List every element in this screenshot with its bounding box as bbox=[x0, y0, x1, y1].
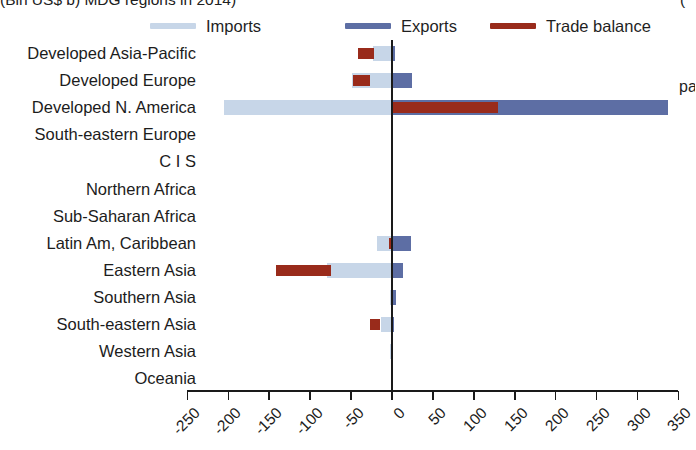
chart-row: Developed Asia-Pacific bbox=[0, 40, 696, 67]
bar-exports bbox=[392, 236, 411, 251]
x-axis-tick bbox=[473, 391, 475, 400]
legend-item-trade-balance[interactable]: Trade balance bbox=[490, 14, 651, 38]
bar-zone bbox=[200, 40, 696, 67]
x-axis-tick bbox=[555, 391, 557, 400]
chart-row: Sub-Saharan Africa bbox=[0, 203, 696, 230]
category-label-latin-am-caribbean: Latin Am, Caribbean bbox=[0, 230, 196, 257]
chart-row: Western Asia bbox=[0, 338, 696, 365]
bar-trade-balance bbox=[276, 265, 331, 276]
bar-zone bbox=[200, 311, 696, 338]
chart-row: South-eastern Asia bbox=[0, 311, 696, 338]
chart-title-clipped: (Bln US$ b) MDG regions in 2014) bbox=[0, 0, 560, 13]
category-label-developed-asia-pacific: Developed Asia-Pacific bbox=[0, 40, 196, 67]
legend-item-imports[interactable]: Imports bbox=[150, 14, 261, 38]
chart-title-text: (Bln US$ b) MDG regions in 2014) bbox=[0, 0, 560, 9]
bar-zone bbox=[200, 365, 696, 392]
x-axis-tick bbox=[637, 391, 639, 400]
category-label-south-eastern-europe: South-eastern Europe bbox=[0, 121, 196, 148]
x-axis-tick bbox=[187, 391, 189, 400]
bar-zone bbox=[200, 257, 696, 284]
category-label-southern-asia: Southern Asia bbox=[0, 284, 196, 311]
x-axis-tick bbox=[678, 391, 680, 400]
chart-root: (Bln US$ b) MDG regions in 2014) ( Impor… bbox=[0, 0, 696, 450]
x-axis-tick bbox=[432, 391, 434, 400]
bar-trade-balance bbox=[358, 48, 374, 59]
chart-row: Eastern Asia bbox=[0, 257, 696, 284]
line-swatch-icon bbox=[490, 23, 536, 29]
category-label-northern-africa: Northern Africa bbox=[0, 176, 196, 203]
bar-zone bbox=[200, 176, 696, 203]
bar-trade-balance bbox=[392, 102, 498, 113]
bar-trade-balance bbox=[353, 75, 370, 86]
bar-zone bbox=[200, 121, 696, 148]
chart-row: Northern Africa bbox=[0, 176, 696, 203]
category-label-developed-n-america: Developed N. America bbox=[0, 94, 196, 121]
bar-zone bbox=[200, 230, 696, 257]
category-label-south-eastern-asia: South-eastern Asia bbox=[0, 311, 196, 338]
bar-exports bbox=[392, 263, 403, 278]
x-axis-tick bbox=[350, 391, 352, 400]
category-label-c-i-s: C I S bbox=[0, 148, 196, 175]
category-label-oceania: Oceania bbox=[0, 365, 196, 392]
side-text-fragment: pa bbox=[679, 78, 695, 96]
bar-zone bbox=[200, 203, 696, 230]
x-axis-tick bbox=[268, 391, 270, 400]
category-label-western-asia: Western Asia bbox=[0, 338, 196, 365]
legend-label: Exports bbox=[401, 14, 457, 38]
bar-imports bbox=[224, 100, 392, 115]
legend-item-exports[interactable]: Exports bbox=[345, 14, 457, 38]
category-label-developed-europe: Developed Europe bbox=[0, 67, 196, 94]
chart-row: C I S bbox=[0, 148, 696, 175]
legend-label: Trade balance bbox=[546, 14, 651, 38]
x-axis-tick bbox=[596, 391, 598, 400]
bar-zone bbox=[200, 284, 696, 311]
bar-zone bbox=[200, 338, 696, 365]
category-label-sub-saharan-africa: Sub-Saharan Africa bbox=[0, 203, 196, 230]
zero-axis-line bbox=[391, 40, 392, 392]
x-axis-tick bbox=[514, 391, 516, 400]
chart-row: Developed Europe bbox=[0, 67, 696, 94]
line-swatch-icon bbox=[345, 23, 391, 29]
x-axis-tick-labels: -250-200-150-100-50050100150200250300350 bbox=[0, 400, 696, 450]
chart-row: Southern Asia bbox=[0, 284, 696, 311]
bar-imports bbox=[373, 46, 392, 61]
bar-imports bbox=[327, 263, 392, 278]
plot-area: Developed Asia-PacificDeveloped EuropeDe… bbox=[0, 40, 696, 402]
x-axis-tick bbox=[309, 391, 311, 400]
chart-row: Latin Am, Caribbean bbox=[0, 230, 696, 257]
x-axis-tick bbox=[391, 391, 393, 400]
chart-title-right-fragment: ( bbox=[680, 0, 694, 11]
bar-zone bbox=[200, 94, 696, 121]
chart-legend: ImportsExportsTrade balance bbox=[0, 14, 696, 38]
chart-row: Developed N. America bbox=[0, 94, 696, 121]
bar-imports bbox=[381, 317, 392, 332]
bar-trade-balance bbox=[370, 319, 380, 330]
line-swatch-icon bbox=[150, 23, 196, 29]
chart-row: South-eastern Europe bbox=[0, 121, 696, 148]
bar-rows: Developed Asia-PacificDeveloped EuropeDe… bbox=[0, 40, 696, 392]
x-axis-tick bbox=[228, 391, 230, 400]
bar-zone bbox=[200, 67, 696, 94]
category-label-eastern-asia: Eastern Asia bbox=[0, 257, 196, 284]
bar-zone bbox=[200, 148, 696, 175]
chart-row: Oceania bbox=[0, 365, 696, 392]
legend-label: Imports bbox=[206, 14, 261, 38]
bar-exports bbox=[392, 73, 412, 88]
